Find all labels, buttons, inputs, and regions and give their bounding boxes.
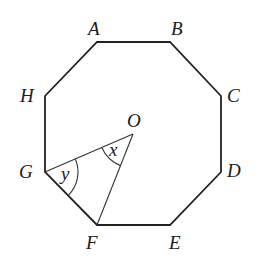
vertex-label-C: C bbox=[227, 85, 240, 106]
diagram-canvas: A B C D E F G H O x y bbox=[0, 0, 262, 263]
vertex-label-F: F bbox=[85, 232, 98, 253]
vertex-label-B: B bbox=[171, 18, 183, 39]
octagon-diagram: A B C D E F G H O x y bbox=[0, 0, 262, 263]
vertex-label-G: G bbox=[19, 161, 33, 182]
angle-arc-y bbox=[68, 159, 78, 196]
angle-label-y: y bbox=[59, 163, 70, 184]
vertex-label-A: A bbox=[86, 18, 100, 39]
vertex-label-D: D bbox=[226, 160, 241, 181]
vertex-label-E: E bbox=[168, 232, 181, 253]
vertex-label-H: H bbox=[19, 85, 35, 106]
center-label-O: O bbox=[127, 110, 141, 131]
angle-label-x: x bbox=[108, 139, 118, 160]
octagon-outline bbox=[45, 42, 221, 225]
